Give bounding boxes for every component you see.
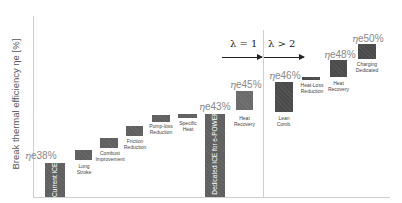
bar-combust — [100, 138, 118, 148]
y-axis — [33, 16, 34, 197]
heat-loss-label: Heat-Loss Reduction — [298, 83, 326, 94]
lambda-2-label: λ > 2 — [268, 38, 295, 49]
lambda-1-label: λ = 1 — [230, 38, 257, 49]
eta-46-label: ηe46% — [269, 70, 301, 81]
charging-dedicated-label: Charging Dedicated — [354, 62, 380, 73]
lambda-2-arrow — [264, 57, 304, 58]
friction-label: Friction Reduction — [121, 139, 149, 150]
y-axis-label: Break thermal efficiency ηe [%] — [10, 40, 21, 170]
bar-heat-loss — [302, 77, 320, 80]
bar-charging-dedicated — [358, 44, 376, 59]
long-stroke-label: Long Stroke — [72, 164, 96, 175]
eta-43-label: ηe43% — [199, 101, 231, 112]
bar-pump-loss — [152, 115, 170, 122]
bar-specific-heat — [178, 114, 197, 118]
dedicated-ice-label: Dedicated ICE for e-POWER — [211, 115, 219, 195]
bar-heat-recovery-2 — [330, 60, 347, 77]
bar-long-stroke — [75, 150, 92, 160]
lambda-divider — [263, 30, 264, 197]
combust-label: Combust Improvement — [93, 151, 127, 162]
specific-heat-label: Specific Heat — [176, 121, 200, 132]
x-axis — [33, 197, 390, 198]
lambda-1-arrow — [222, 57, 262, 58]
lean-comb-label: Lean Comb. — [272, 116, 296, 127]
bar-lean-comb — [275, 82, 293, 112]
bar-friction — [126, 126, 143, 136]
eta-45-label: ηe45% — [230, 79, 262, 90]
bar-heat-recovery-1 — [236, 91, 253, 110]
heat-recovery-2-label: Heat Recovery — [326, 81, 351, 92]
current-ice-label: Current ICE — [51, 158, 59, 202]
heat-recovery-1-label: Heat Recovery — [232, 116, 257, 127]
pump-loss-label: Pump-loss Reduction — [146, 124, 176, 135]
eta-50-label: ηe50% — [352, 33, 384, 44]
eta-48-label: ηe48% — [324, 49, 356, 60]
